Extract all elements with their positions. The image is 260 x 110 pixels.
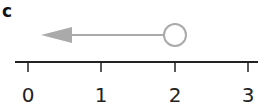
open-circle-icon (164, 24, 186, 46)
arrowhead-left-icon (41, 27, 72, 43)
tick-label-3: 3 (242, 83, 255, 107)
panel-label: c (2, 1, 12, 21)
tick-label-1: 1 (95, 83, 108, 107)
tick-label-0: 0 (22, 83, 35, 107)
number-line-diagram: c 0 1 2 3 (0, 0, 260, 110)
tick-label-2: 2 (169, 83, 182, 107)
